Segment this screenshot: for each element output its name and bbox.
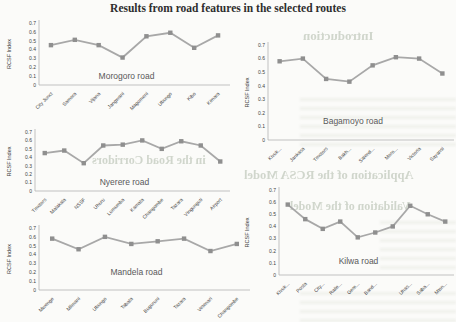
x-tick-label: Tabata	[119, 295, 134, 310]
data-point-marker	[129, 242, 133, 246]
y-tick-label: 0.5	[25, 146, 32, 152]
y-tick-label: 0	[262, 137, 265, 143]
data-point-marker	[408, 204, 412, 208]
data-point-marker	[394, 55, 398, 59]
data-point-marker	[324, 77, 328, 81]
y-tick-label: 0.3	[25, 163, 32, 169]
data-point-marker	[208, 249, 212, 253]
y-tick-label: 0.6	[25, 137, 32, 143]
data-point-marker	[182, 236, 186, 240]
y-tick-label: 0.6	[29, 29, 36, 35]
x-tick-label: Mwenge	[37, 295, 55, 313]
y-tick-label: 0.3	[258, 96, 265, 102]
x-tick-label: Gere...	[345, 280, 360, 295]
y-axis-label: RCSF Index	[244, 77, 250, 107]
chart-title: Mandela road	[111, 267, 163, 277]
y-tick-label: 0.1	[25, 179, 32, 185]
y-tick-label: 0.1	[269, 260, 276, 266]
x-tick-label: Saba...	[415, 280, 430, 295]
x-tick-label: Uhas...	[398, 280, 413, 295]
x-tick-label: Posta	[295, 280, 308, 293]
data-point-marker	[391, 224, 395, 228]
data-point-marker	[49, 43, 53, 47]
x-tick-label: City Junct	[34, 90, 54, 110]
data-point-marker	[216, 33, 220, 37]
y-tick-label: 0.2	[258, 110, 265, 116]
y-tick-label: 0.3	[29, 260, 36, 266]
data-point-marker	[155, 239, 159, 243]
data-point-marker	[235, 242, 239, 246]
y-tick-label: 0.6	[258, 55, 265, 61]
y-tick-label: 0.5	[29, 38, 36, 44]
x-tick-label: Moro...	[383, 145, 398, 160]
data-point-marker	[199, 143, 203, 147]
x-tick-label: Tazara	[169, 196, 184, 211]
data-point-marker	[144, 34, 148, 38]
x-tick-label: Changombe	[216, 295, 240, 319]
y-tick-label: 0.7	[258, 42, 265, 48]
x-tick-label: Jangwani	[106, 90, 125, 109]
nyerere-road-svg: 0.70.60.50.40.30.20.10Nyerere roadTmotor…	[2, 124, 240, 226]
y-tick-label: 0.4	[269, 223, 276, 229]
data-point-marker	[373, 230, 377, 234]
x-tick-label: Tmotors	[30, 196, 48, 214]
x-tick-label: Victoria	[406, 145, 422, 161]
data-point-marker	[73, 38, 77, 42]
chart-morogoro-road: 0.70.60.50.40.30.20.10Morogoro roadCity …	[2, 18, 240, 126]
data-point-marker	[160, 147, 164, 151]
y-tick-label: 0.2	[25, 171, 32, 177]
y-tick-label: 0	[29, 188, 32, 194]
x-tick-label: NSSF	[73, 196, 87, 210]
y-axis-label: RCSF Index	[6, 244, 12, 274]
y-tick-label: 0.4	[258, 83, 265, 89]
x-tick-label: Salend...	[357, 145, 375, 163]
x-tick-label: Uhuru	[92, 196, 106, 210]
x-tick-label: Tmotors	[312, 145, 330, 163]
x-tick-label: Sayansi	[428, 145, 445, 162]
y-tick-label: 0.2	[29, 269, 36, 275]
data-point-marker	[121, 142, 125, 146]
y-axis-label: RCSF Index	[244, 217, 250, 247]
data-point-marker	[50, 236, 54, 240]
chart-bagamoyo-road: 0.70.60.50.40.30.20.10Bagamoyo roadKivuk…	[240, 40, 456, 182]
data-point-marker	[301, 56, 305, 60]
data-point-marker	[120, 55, 124, 59]
data-point-marker	[140, 138, 144, 142]
x-tick-label: Mton...	[433, 280, 448, 295]
data-point-marker	[347, 79, 351, 83]
morogoro-road-svg: 0.70.60.50.40.30.20.10Morogoro roadCity …	[2, 18, 240, 126]
y-tick-label: 0	[273, 272, 276, 278]
data-point-marker	[82, 161, 86, 165]
data-line	[51, 33, 218, 58]
x-tick-label: Buguruni	[142, 295, 160, 313]
data-point-marker	[218, 159, 222, 163]
data-point-marker	[179, 139, 183, 143]
x-tick-label: Vijana	[87, 90, 101, 104]
data-point-marker	[426, 212, 430, 216]
x-tick-label: Ubungo	[156, 90, 173, 107]
data-point-marker	[168, 31, 172, 35]
x-tick-label: Kivuk...	[275, 280, 291, 296]
data-point-marker	[303, 217, 307, 221]
x-tick-label: Lumumba	[105, 196, 125, 216]
chart-title: Nyerere road	[100, 177, 150, 187]
bagamoyo-road-svg: 0.70.60.50.40.30.20.10Bagamoyo roadKivuk…	[240, 40, 456, 182]
data-line	[280, 57, 443, 81]
y-tick-label: 0.6	[269, 199, 276, 205]
y-tick-label: 0.4	[29, 251, 36, 257]
y-tick-label: 0.7	[29, 20, 36, 26]
x-tick-label: Vingunguti	[183, 196, 204, 217]
data-point-marker	[192, 46, 196, 50]
y-tick-label: 0.6	[29, 234, 36, 240]
y-tick-label: 0.1	[29, 278, 36, 284]
x-tick-label: Bakh...	[337, 145, 352, 160]
y-tick-label: 0.2	[269, 248, 276, 254]
figure-title: Results from road features in the select…	[0, 2, 456, 14]
data-line	[45, 140, 221, 163]
y-tick-label: 0.7	[269, 187, 276, 193]
y-tick-label: 0.1	[258, 123, 265, 129]
x-tick-label: Magomeni	[128, 90, 149, 111]
y-tick-label: 0.2	[29, 64, 36, 70]
x-tick-label: Changombe	[141, 196, 165, 220]
x-tick-label: Mlimani	[65, 295, 81, 311]
